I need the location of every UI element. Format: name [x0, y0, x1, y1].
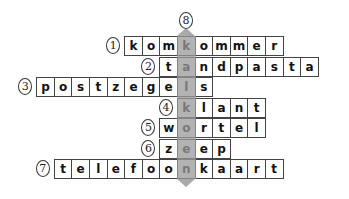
letter-cell[interactable]: f: [124, 159, 143, 179]
letter-cell[interactable]: e: [177, 139, 196, 159]
letter-cell[interactable]: z: [159, 139, 178, 159]
letter-cell[interactable]: a: [300, 57, 319, 77]
letter-cell[interactable]: e: [247, 36, 266, 56]
clue-number-3: 3: [18, 78, 32, 95]
letter-cell[interactable]: l: [89, 159, 108, 179]
letter-cell[interactable]: e: [124, 77, 143, 97]
letter-cell[interactable]: t: [89, 77, 108, 97]
letter-cell[interactable]: g: [142, 77, 161, 97]
clue-number-solution: 8: [179, 12, 193, 29]
letter-cell[interactable]: p: [230, 57, 249, 77]
letter-cell[interactable]: d: [212, 57, 231, 77]
letter-cell[interactable]: s: [195, 77, 214, 97]
word-row-7: telefoonkaart: [54, 159, 284, 179]
letter-cell[interactable]: l: [195, 98, 214, 118]
letter-cell[interactable]: l: [177, 77, 196, 97]
word-row-3: postzegels: [36, 77, 213, 97]
letter-cell[interactable]: o: [195, 36, 214, 56]
letter-cell[interactable]: t: [159, 57, 178, 77]
word-row-5: wortel: [159, 118, 266, 138]
letter-cell[interactable]: o: [142, 36, 161, 56]
letter-cell[interactable]: t: [265, 159, 284, 179]
solution-arrow-top-icon: [177, 28, 195, 36]
letter-cell[interactable]: m: [159, 36, 178, 56]
letter-cell[interactable]: a: [212, 159, 231, 179]
clue-number-1: 1: [106, 37, 120, 54]
letter-cell[interactable]: o: [159, 159, 178, 179]
letter-cell[interactable]: z: [107, 77, 126, 97]
letter-cell[interactable]: k: [195, 159, 214, 179]
letter-cell[interactable]: t: [54, 159, 73, 179]
letter-cell[interactable]: k: [177, 98, 196, 118]
letter-cell[interactable]: o: [177, 118, 196, 138]
clue-number-2: 2: [141, 58, 155, 75]
letter-cell[interactable]: w: [159, 118, 178, 138]
letter-cell[interactable]: p: [212, 139, 231, 159]
letter-cell[interactable]: m: [230, 36, 249, 56]
letter-cell[interactable]: n: [195, 57, 214, 77]
letter-cell[interactable]: t: [212, 118, 231, 138]
crossword-puzzle: komkommer1tandpasta2postzegels3klant4wor…: [0, 0, 349, 199]
letter-cell[interactable]: r: [265, 36, 284, 56]
letter-cell[interactable]: a: [247, 57, 266, 77]
clue-number-5: 5: [141, 119, 155, 136]
letter-cell[interactable]: s: [265, 57, 284, 77]
letter-cell[interactable]: t: [283, 57, 302, 77]
word-row-4: klant: [177, 98, 266, 118]
letter-cell[interactable]: m: [212, 36, 231, 56]
letter-cell[interactable]: r: [247, 159, 266, 179]
word-row-1: komkommer: [124, 36, 283, 56]
letter-cell[interactable]: n: [177, 159, 196, 179]
letter-cell[interactable]: e: [230, 118, 249, 138]
letter-cell[interactable]: l: [247, 118, 266, 138]
letter-cell[interactable]: k: [177, 36, 196, 56]
letter-cell[interactable]: r: [195, 118, 214, 138]
letter-cell[interactable]: e: [159, 77, 178, 97]
letter-cell[interactable]: e: [71, 159, 90, 179]
letter-cell[interactable]: o: [54, 77, 73, 97]
letter-cell[interactable]: a: [177, 57, 196, 77]
letter-cell[interactable]: s: [71, 77, 90, 97]
letter-cell[interactable]: n: [230, 98, 249, 118]
letter-cell[interactable]: o: [142, 159, 161, 179]
letter-cell[interactable]: a: [230, 159, 249, 179]
word-row-2: tandpasta: [159, 57, 318, 77]
letter-cell[interactable]: e: [107, 159, 126, 179]
letter-cell[interactable]: e: [195, 139, 214, 159]
letter-cell[interactable]: p: [36, 77, 55, 97]
clue-number-4: 4: [159, 99, 173, 116]
clue-number-6: 6: [141, 140, 155, 157]
clue-number-7: 7: [36, 160, 50, 177]
letter-cell[interactable]: a: [212, 98, 231, 118]
letter-cell[interactable]: k: [124, 36, 143, 56]
solution-arrow-bottom-icon: [177, 179, 195, 187]
word-row-6: zeep: [159, 139, 230, 159]
letter-cell[interactable]: t: [247, 98, 266, 118]
